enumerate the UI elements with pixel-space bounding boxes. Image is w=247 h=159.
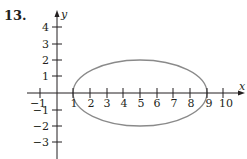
y-tick-label: −1 [33, 104, 49, 117]
y-tick-labels: 4 3 2 1 −1 −2 −3 [33, 21, 49, 149]
x-tick-label: 10 [219, 97, 233, 110]
y-tick-label: 2 [42, 54, 49, 67]
x-tick-label: 4 [121, 97, 128, 110]
x-tick-label: 7 [171, 97, 178, 110]
x-tick-label: 8 [188, 97, 195, 110]
y-tick-label: 1 [42, 70, 49, 83]
x-tick-label: 1 [71, 97, 78, 110]
x-tick-label: 6 [154, 97, 161, 110]
x-tick-label: 9 [206, 97, 213, 110]
y-tick-label: 3 [42, 38, 49, 51]
x-tick-label: 5 [138, 97, 145, 110]
ellipse-graph: x y −1 1 2 3 4 5 6 7 8 9 10 4 [0, 0, 247, 159]
y-axis-label: y [60, 8, 68, 21]
x-tick-label: 2 [88, 97, 95, 110]
y-tick-label: 4 [42, 21, 49, 34]
x-tick-label: 3 [104, 97, 111, 110]
x-axis-label: x [239, 80, 246, 93]
y-axis-arrow-icon [55, 10, 60, 17]
y-tick-label: −3 [33, 136, 49, 149]
x-tick-labels: −1 1 2 3 4 5 6 7 8 9 10 [30, 97, 233, 110]
y-tick-label: −2 [33, 120, 49, 133]
